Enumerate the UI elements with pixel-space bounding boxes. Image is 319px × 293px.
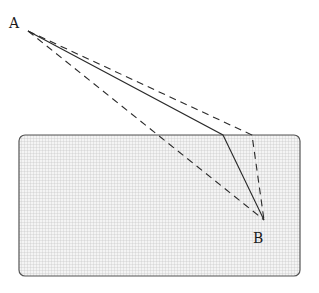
point-a-label: A (8, 15, 20, 31)
diagram-canvas: A B (0, 0, 319, 293)
medium-region (19, 135, 300, 276)
point-b-label: B (253, 230, 263, 246)
